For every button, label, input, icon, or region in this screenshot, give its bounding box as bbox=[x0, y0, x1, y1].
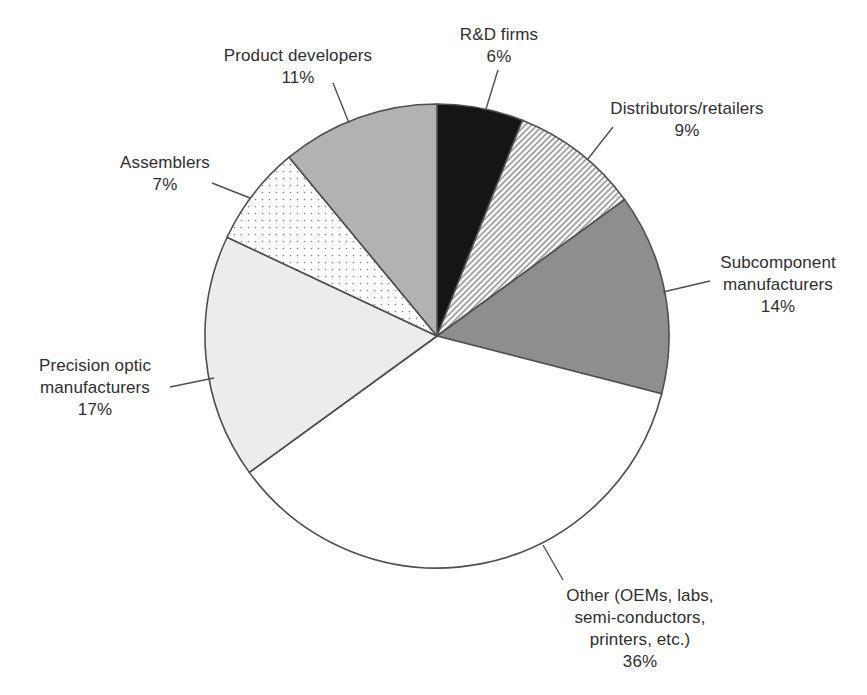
leader-line-other-oems-labs-semi-conductors-printers-etc bbox=[543, 545, 563, 580]
leader-line-distributors-retailers bbox=[587, 127, 613, 160]
leader-line-r-d-firms bbox=[486, 70, 498, 109]
pie-chart-canvas bbox=[0, 0, 867, 695]
leader-line-precision-optic-manufacturers bbox=[170, 378, 214, 387]
leader-line-assemblers bbox=[212, 183, 250, 198]
leader-line-product-developers bbox=[333, 83, 349, 123]
pie-chart-figure: R&D firms6%Distributors/retailers9%Subco… bbox=[0, 0, 867, 695]
leader-line-subcomponent-manufacturers bbox=[663, 281, 710, 292]
pie-slices bbox=[205, 104, 669, 568]
